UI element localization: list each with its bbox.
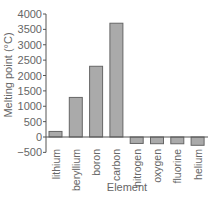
bar-fluorine bbox=[171, 137, 184, 144]
x-tick-label: helium bbox=[192, 149, 204, 180]
bars bbox=[49, 23, 204, 145]
y-tick-label: 0 bbox=[36, 131, 42, 143]
y-tick-label: 3500 bbox=[18, 23, 42, 35]
bar-beryllium bbox=[69, 97, 82, 137]
bar-oxygen bbox=[151, 137, 164, 144]
bar-lithium bbox=[49, 131, 62, 137]
x-tick-label: fluorine bbox=[171, 149, 183, 184]
bar-boron bbox=[90, 66, 103, 137]
bar-carbon bbox=[110, 23, 123, 137]
x-tick-label: beryllium bbox=[70, 149, 82, 191]
y-axis-title: Melting point (°C) bbox=[2, 32, 14, 117]
x-tick-label: boron bbox=[90, 149, 102, 176]
y-tick-label: 1000 bbox=[18, 100, 42, 112]
y-tick-label: 4000 bbox=[18, 8, 42, 20]
melting-point-bar-chart: −50005001000150020002500300035004000 lit… bbox=[0, 0, 218, 201]
x-axis-title: Element bbox=[107, 181, 147, 193]
y-tick-label: −500 bbox=[17, 146, 42, 158]
x-tick-label: lithium bbox=[50, 149, 62, 180]
x-tick-label: oxygen bbox=[151, 149, 163, 183]
y-axis: −50005001000150020002500300035004000 bbox=[17, 8, 46, 158]
y-tick-label: 3000 bbox=[18, 39, 42, 51]
y-tick-label: 2500 bbox=[18, 54, 42, 66]
x-tick-label: carbon bbox=[110, 149, 122, 181]
y-tick-label: 2000 bbox=[18, 70, 42, 82]
bar-nitrogen bbox=[130, 137, 143, 143]
bar-helium bbox=[191, 137, 204, 145]
y-tick-label: 500 bbox=[24, 116, 42, 128]
y-tick-label: 1500 bbox=[18, 85, 42, 97]
